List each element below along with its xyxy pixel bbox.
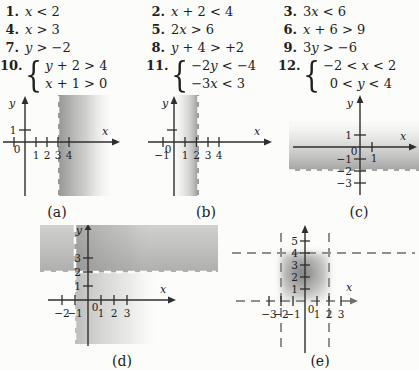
y-tick-label: 3	[291, 259, 298, 271]
origin-label: 0	[351, 145, 358, 157]
x-axis-label: x	[254, 125, 261, 138]
y-axis-label: y	[161, 97, 169, 110]
x-axis-label: x	[102, 125, 109, 138]
y-axis-label: y	[346, 97, 354, 110]
x-axis-label: x	[160, 283, 167, 296]
y-axis-arrow	[302, 225, 309, 233]
x-tick-label: 4	[66, 149, 73, 161]
x-tick-label: 1	[371, 152, 378, 164]
exercise-number: 1.	[0, 3, 19, 21]
origin-label: 0	[308, 303, 315, 315]
exercise-4: 4.x > 3	[0, 21, 146, 39]
system-brace: {	[171, 52, 188, 99]
y-axis-arrow	[22, 96, 29, 104]
x-tick-label: −1	[285, 308, 300, 320]
x-tick-label: 1	[314, 308, 321, 320]
textbook-page: 1.x < 2 2.x + 2 < 4 3.3x < 6 4.x > 3 5.2…	[0, 0, 419, 370]
exercise-11: 11. {−2y < −4−3x < 3	[146, 57, 278, 93]
shaded-region	[175, 95, 199, 196]
panel-caption: (d)	[112, 353, 132, 369]
exercise-number: 9.	[278, 39, 297, 57]
exercise-number: 2.	[146, 3, 165, 21]
exercise-9: 9.3y > −6	[278, 39, 419, 57]
graph-b: −1 1 2 3 4 0 y x (b)	[146, 95, 280, 223]
graph-d: −2 −1 1 2 3 3 2 1 0 y x (d)	[40, 225, 220, 370]
x-tick-label: 1	[98, 307, 105, 319]
exercise-list: 1.x < 2 2.x + 2 < 4 3.3x < 6 4.x > 3 5.2…	[0, 3, 419, 93]
y-tick-label: −2	[337, 165, 352, 177]
system-line-1: −2y < −4	[191, 57, 256, 75]
y-axis-label: y	[75, 225, 83, 237]
system-brace: {	[303, 52, 320, 99]
exercise-expression: x < 2	[25, 3, 60, 21]
exercise-10: 10. {y + 2 > 4x + 1 > 0	[0, 57, 146, 93]
exercise-number: 7.	[0, 39, 19, 57]
x-axis-arrow	[112, 139, 120, 146]
x-axis-label: x	[346, 281, 353, 294]
exercise-12: 12. {−2 < x < 2 0 < y < 4	[278, 57, 419, 93]
y-tick-label: 1	[74, 280, 81, 292]
exercise-1: 1.x < 2	[0, 3, 146, 21]
exercise-5: 5.2x > 6	[146, 21, 278, 39]
x-tick-label: 3	[205, 149, 212, 161]
y-tick-label: 2	[74, 266, 81, 278]
y-tick-label: 3	[74, 252, 81, 264]
graph-a: 1 2 3 4 1 0 y x (a)	[0, 95, 142, 223]
x-tick-label: 1	[182, 149, 189, 161]
shaded-region	[58, 95, 110, 196]
exercise-3: 3.3x < 6	[278, 3, 419, 21]
exercise-expression: x > 3	[25, 21, 60, 39]
exercise-expression: x + 6 > 9	[303, 21, 365, 39]
y-tick-label: 1	[10, 124, 17, 136]
x-axis-arrow	[350, 298, 358, 305]
exercise-number: 4.	[0, 21, 19, 39]
exercise-7: 7.y > −2	[0, 39, 146, 57]
x-tick-label: 4	[216, 149, 223, 161]
y-tick-label: 1	[291, 283, 298, 295]
exercise-number: 5.	[146, 21, 165, 39]
panel-caption: (c)	[350, 204, 369, 220]
system-line-2: −3x < 3	[191, 75, 256, 93]
y-tick-label: 5	[291, 235, 298, 247]
x-tick-label: −1	[67, 307, 82, 319]
x-axis-arrow	[168, 297, 176, 304]
x-tick-label: 3	[124, 307, 131, 319]
exercise-number: 6.	[278, 21, 297, 39]
exercise-6: 6.x + 6 > 9	[278, 21, 419, 39]
panel-caption: (e)	[310, 353, 329, 369]
origin-label: 0	[92, 301, 99, 313]
system-brace: {	[25, 52, 42, 99]
panel-caption: (a)	[47, 204, 66, 220]
origin-label: 0	[14, 143, 21, 155]
graph-c: 1 −1 −2 −3 1 0 y x (c)	[289, 95, 419, 223]
x-tick-label: 3	[55, 149, 62, 161]
x-tick-label: 2	[44, 149, 51, 161]
exercise-expression: x + 2 < 4	[171, 3, 233, 21]
exercise-number: 10.	[0, 57, 19, 75]
x-axis-label: x	[400, 130, 407, 143]
exercise-number: 12.	[278, 57, 297, 75]
origin-label: 0	[165, 143, 172, 155]
exercise-number: 3.	[278, 3, 297, 21]
exercise-2: 2.x + 2 < 4	[146, 3, 278, 21]
graph-e: −3 −2 −1 1 2 3 5 4 3 2 1 0 x (e)	[228, 225, 419, 370]
y-tick-label: 1	[345, 129, 352, 141]
panel-caption: (b)	[196, 204, 216, 220]
system-line-1: −2 < x < 2	[323, 57, 396, 75]
exercise-number: 11.	[146, 57, 165, 75]
x-tick-label: 2	[326, 308, 333, 320]
x-tick-label: 2	[111, 307, 118, 319]
y-axis-arrow	[357, 95, 364, 103]
exercise-number: 8.	[146, 39, 165, 57]
x-axis-arrow	[264, 139, 272, 146]
exercise-expression: 2x > 6	[171, 21, 214, 39]
exercise-expression: 3x < 6	[303, 3, 346, 21]
system-line-2: x + 1 > 0	[45, 75, 107, 93]
exercise-8: 8.y + 4 > +2	[146, 39, 278, 57]
x-tick-label: 2	[193, 149, 200, 161]
y-tick-label: 2	[291, 271, 298, 283]
x-tick-label: 1	[33, 149, 40, 161]
y-tick-label: 4	[291, 247, 298, 259]
x-tick-label: 3	[338, 308, 345, 320]
system-line-2: 0 < y < 4	[323, 75, 396, 93]
